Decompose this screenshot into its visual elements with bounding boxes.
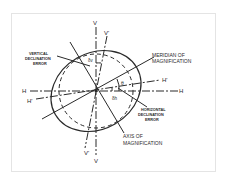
h-left-label: H xyxy=(22,88,26,94)
axis-label-2: MAGNIFICATION xyxy=(123,140,163,146)
meridian-label-2: MAGNIFICATION xyxy=(152,58,192,64)
delta-v-label: δv xyxy=(88,58,94,63)
theta-arc xyxy=(117,79,119,91)
horizontal-error-label-2: DECLINATION xyxy=(138,113,164,117)
magnification-diagram: V V' V V' H H H' H' θ δv δh VERTICAL DEC… xyxy=(0,0,231,183)
delta-h-label: δh xyxy=(112,96,118,101)
v-top-label: V xyxy=(93,20,97,26)
vertical-error-leader xyxy=(57,56,90,66)
vertical-error-label-2: DECLINATION xyxy=(25,57,51,61)
axis-label-1: AXIS OF xyxy=(123,133,143,139)
magnification-axis-line xyxy=(70,42,124,133)
vertical-error-label-3: ERROR xyxy=(33,62,47,66)
v-prime-top-label: V' xyxy=(104,30,109,36)
h-prime-left-label: H' xyxy=(27,98,32,104)
h-prime-right-label: H' xyxy=(162,77,167,83)
center-point xyxy=(95,90,98,93)
v-prime-bottom-label: V' xyxy=(84,150,89,156)
h-right-label: H xyxy=(179,88,183,94)
horizontal-error-label-3: ERROR xyxy=(145,118,159,122)
vertical-error-label-1: VERTICAL xyxy=(29,52,49,56)
v-bottom-label: V xyxy=(94,158,98,164)
horizontal-error-label-1: HORIZONTAL xyxy=(141,108,166,112)
theta-label: θ xyxy=(121,80,124,86)
